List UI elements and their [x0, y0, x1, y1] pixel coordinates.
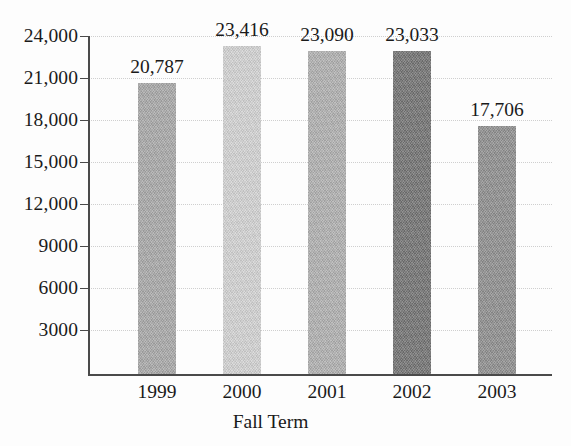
- bar-2002[interactable]: [393, 51, 431, 374]
- bar-value-2003: 17,706: [442, 100, 552, 120]
- x-tick-label-2003: 2003: [442, 382, 552, 402]
- y-tick-label: 15,000: [4, 152, 78, 172]
- bar-1999[interactable]: [138, 83, 176, 374]
- y-tick-label: 6000: [4, 278, 78, 298]
- y-tick-label: 9000: [4, 236, 78, 256]
- y-tick-label: 12,000: [4, 194, 78, 214]
- x-axis-line: [88, 374, 552, 376]
- bar-chart-figure: 3000 6000 9000 12,000 15,000 18,000 21,0…: [0, 0, 571, 446]
- bar-value-1999: 20,787: [102, 57, 212, 77]
- bar-value-2002: 23,033: [357, 25, 467, 45]
- y-tick-label: 24,000: [4, 26, 78, 46]
- y-tick-label: 3000: [4, 320, 78, 340]
- y-axis-line: [88, 36, 90, 375]
- bar-2000[interactable]: [223, 46, 261, 374]
- y-tick-label: 18,000: [4, 110, 78, 130]
- bar-2001[interactable]: [308, 51, 346, 374]
- y-tick-label: 21,000: [4, 68, 78, 88]
- bar-2003[interactable]: [478, 126, 516, 374]
- x-axis-title: Fall Term: [0, 412, 556, 432]
